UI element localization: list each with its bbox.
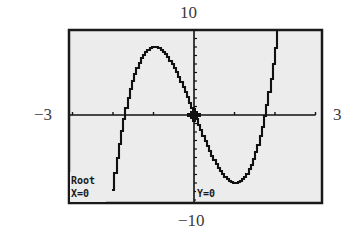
x-min-label: −3 xyxy=(34,106,52,123)
status-x-value: X=0 xyxy=(71,188,89,199)
status-y-value: Y=0 xyxy=(197,188,215,199)
y-max-label: 10 xyxy=(180,4,197,21)
x-max-label: 3 xyxy=(333,106,342,123)
y-min-label: −10 xyxy=(178,212,205,229)
status-root-label: Root xyxy=(71,175,95,186)
